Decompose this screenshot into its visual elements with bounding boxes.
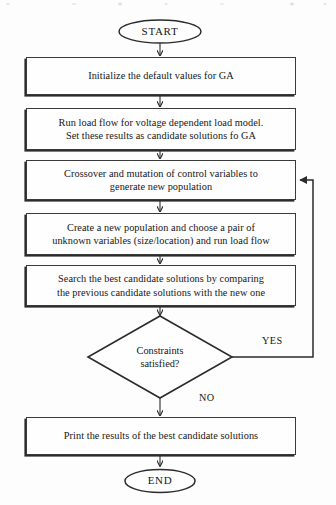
process-node-load-flow-line-2: Set these results as candidate solutions… [59,129,264,142]
branch-label-yes: YES [262,335,283,346]
process-node-print-results: Print the results of the best candidate … [26,417,296,455]
decision-diamond-line-1: Constraints [110,344,210,357]
process-node-search-best-label: Search the best candidate solutions by c… [52,272,270,298]
process-node-load-flow-label: Run load flow for voltage dependent load… [54,116,269,142]
flowchart-canvas: START Initialize the default values for … [0,0,336,505]
process-node-load-flow-line-1: Run load flow for voltage dependent load… [59,116,264,129]
process-node-init-label: Initialize the default values for GA [83,69,239,82]
decision-diamond-line-2: satisfied? [110,357,210,370]
process-node-search-best-line-2: the previous candidate solutions with th… [57,286,265,299]
branch-label-no: NO [199,392,215,403]
process-node-search-best: Search the best candidate solutions by c… [26,265,296,306]
process-node-init: Initialize the default values for GA [26,57,296,95]
process-node-crossover-line-1: Crossover and mutation of control variab… [64,167,258,180]
process-node-new-population-label: Create a new population and choose a pai… [47,221,275,247]
process-node-crossover: Crossover and mutation of control variab… [26,160,296,200]
process-node-new-population: Create a new population and choose a pai… [26,213,296,255]
process-node-search-best-line-1: Search the best candidate solutions by c… [57,272,265,285]
start-terminal-label: START [120,25,200,37]
decision-diamond-label: Constraints satisfied? [110,344,210,370]
process-node-print-results-label: Print the results of the best candidate … [59,429,263,442]
process-node-crossover-line-2: generate new population [64,180,258,193]
process-node-new-population-line-1: Create a new population and choose a pai… [52,221,270,234]
process-node-crossover-label: Crossover and mutation of control variab… [59,167,263,193]
process-node-new-population-line-2: unknown variables (size/location) and ru… [52,234,270,247]
process-node-load-flow: Run load flow for voltage dependent load… [26,108,296,150]
end-terminal-label: END [125,474,195,486]
